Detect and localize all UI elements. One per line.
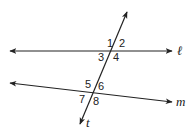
angle-label-4: 4 [113,51,119,63]
parallel-lines-diagram: ℓ m t 1 2 3 4 5 6 7 8 [0,0,191,138]
angle-label-7: 7 [79,93,85,105]
angle-label-5: 5 [85,78,91,90]
label-line-t: t [86,115,90,130]
angle-label-3: 3 [98,51,104,63]
transversal-t [80,12,127,124]
angle-label-8: 8 [93,95,99,107]
angle-label-1: 1 [107,37,113,49]
label-line-l: ℓ [177,43,183,58]
label-line-m: m [176,94,185,109]
angle-label-2: 2 [119,37,125,49]
angle-label-6: 6 [98,80,104,92]
